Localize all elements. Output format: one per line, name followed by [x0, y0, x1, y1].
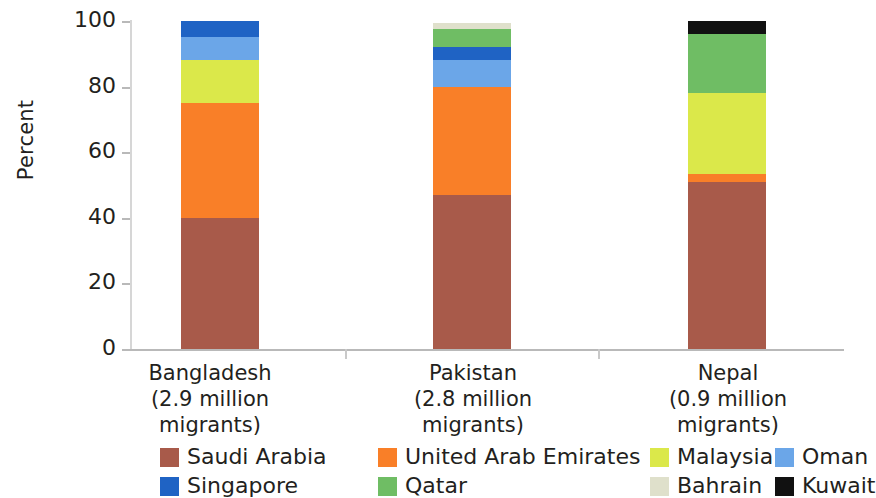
- legend-item-saudi-arabia[interactable]: Saudi Arabia: [160, 445, 327, 469]
- bar-segment-qatar[interactable]: [433, 29, 511, 47]
- y-axis-tick-mark: [122, 21, 130, 23]
- category-label-nepal: Nepal (0.9 million migrants): [628, 360, 828, 438]
- legend-label: Singapore: [187, 474, 298, 498]
- y-axis-tick-mark: [122, 349, 130, 351]
- bar-segment-singapore[interactable]: [433, 47, 511, 60]
- bar-segment-saudi-arabia[interactable]: [181, 218, 259, 349]
- category-sublabel: (2.9 million migrants): [110, 386, 310, 438]
- chart-legend: Saudi ArabiaUnited Arab EmiratesMalaysia…: [0, 443, 853, 498]
- bar-segment-saudi-arabia[interactable]: [433, 195, 511, 349]
- bar-segment-singapore[interactable]: [181, 21, 259, 37]
- y-axis-tick-mark: [122, 87, 130, 89]
- legend-swatch-icon: [650, 477, 669, 496]
- bar-segment-united-arab-emirates[interactable]: [688, 174, 766, 182]
- bar-segment-united-arab-emirates[interactable]: [433, 87, 511, 195]
- bar-segment-qatar[interactable]: [688, 34, 766, 93]
- y-axis-tick-mark: [122, 283, 130, 285]
- legend-swatch-icon: [160, 448, 179, 467]
- legend-item-qatar[interactable]: Qatar: [378, 474, 467, 498]
- bar-segment-malaysia[interactable]: [181, 60, 259, 103]
- category-sublabel: (2.8 million migrants): [373, 386, 573, 438]
- legend-label: United Arab Emirates: [405, 445, 640, 469]
- bar-segment-saudi-arabia[interactable]: [688, 182, 766, 349]
- legend-label: Qatar: [405, 474, 467, 498]
- legend-item-kuwait[interactable]: Kuwait: [775, 474, 876, 498]
- bar-pakistan[interactable]: [433, 23, 511, 349]
- category-name: Nepal: [698, 361, 759, 385]
- category-name: Bangladesh: [148, 361, 271, 385]
- category-name: Pakistan: [429, 361, 517, 385]
- legend-label: Malaysia: [677, 445, 773, 469]
- legend-swatch-icon: [775, 477, 794, 496]
- legend-label: Oman: [802, 445, 868, 469]
- legend-swatch-icon: [160, 477, 179, 496]
- legend-item-united-arab-emirates[interactable]: United Arab Emirates: [378, 445, 640, 469]
- bar-nepal[interactable]: [688, 21, 766, 349]
- legend-swatch-icon: [378, 448, 397, 467]
- legend-item-singapore[interactable]: Singapore: [160, 474, 298, 498]
- bar-segment-oman[interactable]: [181, 37, 259, 60]
- legend-label: Kuwait: [802, 474, 876, 498]
- legend-item-malaysia[interactable]: Malaysia: [650, 445, 773, 469]
- bar-segment-oman[interactable]: [433, 60, 511, 86]
- legend-swatch-icon: [775, 448, 794, 467]
- category-label-bangladesh: Bangladesh (2.9 million migrants): [110, 360, 310, 438]
- category-sublabel: (0.9 million migrants): [628, 386, 828, 438]
- legend-swatch-icon: [378, 477, 397, 496]
- category-label-pakistan: Pakistan (2.8 million migrants): [373, 360, 573, 438]
- legend-swatch-icon: [650, 448, 669, 467]
- bar-segment-kuwait[interactable]: [688, 21, 766, 34]
- bar-segment-malaysia[interactable]: [688, 93, 766, 173]
- y-axis-tick-mark: [122, 152, 130, 154]
- bar-bangladesh[interactable]: [181, 21, 259, 349]
- legend-item-bahrain[interactable]: Bahrain: [650, 474, 762, 498]
- y-axis-tick-mark: [122, 218, 130, 220]
- legend-item-oman[interactable]: Oman: [775, 445, 868, 469]
- legend-label: Bahrain: [677, 474, 762, 498]
- legend-label: Saudi Arabia: [187, 445, 327, 469]
- bar-segment-united-arab-emirates[interactable]: [181, 103, 259, 218]
